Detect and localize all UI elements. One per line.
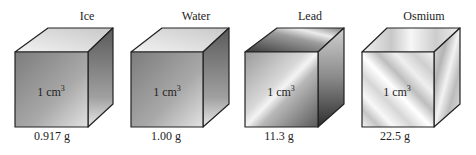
water-cube (131, 28, 229, 127)
lead-volume-label: 1 cm3 (267, 84, 295, 100)
osmium-mass-label: 22.5 g (380, 129, 410, 144)
ice-title: Ice (80, 9, 95, 24)
water-title: Water (182, 9, 210, 24)
lead-cube (245, 28, 344, 127)
ice-mass-label: 0.917 g (34, 129, 70, 144)
ice-volume-label: 1 cm3 (37, 84, 65, 100)
water-mass-label: 1.00 g (151, 129, 181, 144)
osmium-cube (362, 28, 460, 127)
lead-mass-label: 11.3 g (264, 129, 294, 144)
water-volume-label: 1 cm3 (153, 84, 181, 100)
ice-cube (15, 28, 113, 127)
lead-title: Lead (298, 9, 322, 24)
osmium-volume-label: 1 cm3 (383, 84, 411, 100)
osmium-title: Osmium (403, 9, 444, 24)
